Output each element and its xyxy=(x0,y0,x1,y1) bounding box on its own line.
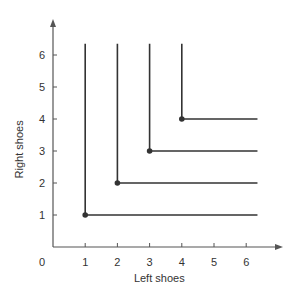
y-tick-label: 4 xyxy=(39,113,45,125)
x-tick-label: 2 xyxy=(114,256,120,268)
y-axis-arrow-icon xyxy=(50,19,56,27)
x-tick-label: 6 xyxy=(243,256,249,268)
indifference-curve-2 xyxy=(117,44,257,183)
y-tick-label: 3 xyxy=(39,145,45,157)
corner-point-3 xyxy=(147,148,153,154)
x-tick-label: 1 xyxy=(82,256,88,268)
x-tick-label: 5 xyxy=(211,256,217,268)
x-axis-title: Left shoes xyxy=(134,272,185,284)
x-tick-label: 3 xyxy=(147,256,153,268)
y-tick-label: 6 xyxy=(39,49,45,61)
indifference-curve-1 xyxy=(85,44,257,215)
y-tick-label: 5 xyxy=(39,81,45,93)
corner-point-2 xyxy=(115,180,121,186)
y-tick-label: 1 xyxy=(39,209,45,221)
x-axis-arrow-icon xyxy=(275,244,283,250)
indifference-curve-4 xyxy=(182,44,258,119)
axis-labels: 1234561234560Left shoesRight shoes xyxy=(13,49,249,284)
origin-label: 0 xyxy=(39,256,45,268)
y-tick-label: 2 xyxy=(39,177,45,189)
corner-point-4 xyxy=(179,116,185,122)
y-axis-title: Right shoes xyxy=(13,120,25,179)
x-tick-label: 4 xyxy=(179,256,185,268)
perfect-complements-chart: 1234561234560Left shoesRight shoes xyxy=(0,0,296,298)
indifference-curve-3 xyxy=(150,44,258,151)
indifference-curves xyxy=(82,44,257,218)
corner-point-1 xyxy=(82,212,88,218)
